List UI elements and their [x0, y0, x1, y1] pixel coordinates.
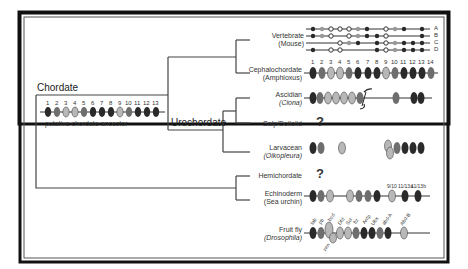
gene-number: 2 [55, 100, 58, 106]
gene-number: 13 [152, 100, 159, 106]
gene-number: 10 [125, 100, 132, 106]
taxon-larvacean: Larvacean(Oikopleura) [263, 144, 302, 160]
gene-number: 6 [91, 100, 94, 106]
gene-number: 4 [73, 100, 76, 106]
gene-number: 2 [320, 59, 323, 65]
taxon-fruitfly: Fruit fly(Drosophila) [264, 226, 302, 242]
gene-number: 7 [366, 59, 369, 65]
gene-label: 9/10 [387, 183, 397, 189]
taxon-echinoderm: Echinoderm(Sea urchin) [264, 190, 302, 206]
gene-number: 5 [347, 59, 350, 65]
vertebrate-clusters [306, 29, 430, 50]
gene-number: 11 [134, 100, 140, 106]
cluster-a-label: A [434, 25, 438, 31]
gene-number: 3 [64, 100, 67, 106]
gene-number: 1 [311, 59, 314, 65]
gene-number: 8 [375, 59, 378, 65]
gene-number: 11 [400, 59, 406, 65]
gene-number: 9 [118, 100, 121, 106]
diagram-canvas [0, 0, 468, 269]
taxon-ascidian: Ascidian(Ciona) [276, 91, 302, 107]
gene-number: 6 [356, 59, 359, 65]
gene-number: 9 [384, 59, 387, 65]
sea-urchin-genes [310, 190, 422, 202]
gene-number: 7 [100, 100, 103, 106]
cluster-b-label: B [434, 32, 438, 38]
chordate-label: Chordate [37, 82, 78, 93]
urochordate-label: Urochordate [171, 117, 226, 128]
gene-number: 1 [46, 100, 49, 106]
gene-number: 5 [82, 100, 85, 106]
gene-number: 14 [427, 59, 434, 65]
taxon-vertebrate: Vertebrate(Mouse) [272, 32, 304, 48]
oikopleura-genes [310, 140, 425, 159]
taxon-hemichordate: Hemichordate [258, 172, 302, 180]
gene-label: 11/13b [411, 183, 426, 189]
taxon-salp: Salp/Doliolid [263, 120, 302, 128]
gene-number: 4 [338, 59, 341, 65]
cluster-d-label: D [434, 46, 438, 52]
ancestor-caption: putative chordate ancestor [45, 120, 128, 128]
salp-unknown: ? [316, 114, 324, 129]
gene-number: 12 [143, 100, 150, 106]
gene-number: 10 [391, 59, 398, 65]
gene-number: 13 [418, 59, 425, 65]
cluster-c-label: C [434, 39, 438, 45]
gene-number: 3 [329, 59, 332, 65]
hemichordate-unknown: ? [316, 166, 324, 181]
taxon-cephalochordate: Cephalochordate(Amphioxus) [249, 66, 302, 82]
gene-number: 12 [409, 59, 416, 65]
gene-number: 8 [109, 100, 112, 106]
